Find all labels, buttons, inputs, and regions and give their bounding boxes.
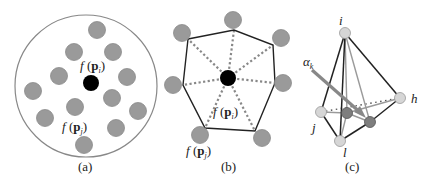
caption-c: (c) bbox=[345, 159, 359, 174]
label-i: i bbox=[339, 13, 343, 28]
point bbox=[275, 75, 292, 92]
point bbox=[254, 130, 271, 147]
label-f-pi: f (pi) bbox=[213, 104, 238, 121]
figure-canvas: f (pi) f (pj) (a) f (pi) bbox=[0, 0, 431, 187]
point bbox=[165, 77, 182, 94]
label-f-pi: f (pi) bbox=[80, 58, 105, 75]
center-point bbox=[83, 75, 99, 91]
point bbox=[37, 110, 54, 127]
point bbox=[105, 44, 122, 61]
label-h: h bbox=[411, 91, 418, 106]
point bbox=[174, 25, 191, 42]
point bbox=[76, 137, 93, 154]
point bbox=[51, 68, 68, 85]
caption-a: (a) bbox=[78, 159, 92, 174]
node-i bbox=[340, 28, 351, 39]
point bbox=[108, 120, 125, 137]
center-point bbox=[220, 70, 236, 86]
point bbox=[273, 30, 290, 47]
panel-c: i h j l αk (c) bbox=[303, 13, 418, 174]
label-f-pj: f (pj) bbox=[186, 143, 211, 160]
panel-b: f (pi) f (pj) (b) bbox=[165, 12, 292, 175]
label-j: j bbox=[310, 120, 316, 135]
node-h bbox=[395, 93, 406, 104]
point bbox=[25, 83, 42, 100]
panel-a: f (pi) f (pj) (a) bbox=[15, 15, 157, 174]
label-l: l bbox=[343, 145, 347, 160]
point bbox=[130, 103, 147, 120]
node-inner-2 bbox=[365, 117, 376, 128]
point bbox=[89, 22, 106, 39]
point bbox=[192, 127, 209, 144]
caption-b: (b) bbox=[221, 159, 236, 174]
point bbox=[225, 12, 242, 29]
label-f-pj: f (pj) bbox=[62, 119, 87, 136]
point bbox=[119, 69, 136, 86]
label-alpha-k: αk bbox=[303, 54, 314, 71]
node-inner-1 bbox=[342, 108, 353, 119]
point bbox=[104, 90, 121, 107]
point bbox=[67, 99, 84, 116]
node-j bbox=[316, 107, 327, 118]
